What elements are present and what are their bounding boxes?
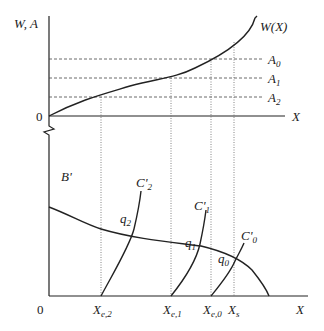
c-prime-2-label: C'2 — [136, 175, 152, 192]
c-prime-1-curve — [171, 210, 206, 296]
diagram-canvas: W, A 0 X W(X) A0 A1 A2 B' C'2 C'1 C'0 q2… — [0, 0, 324, 331]
c-prime-0-curve — [211, 243, 244, 296]
tick-xe1: Xe,1 — [162, 302, 182, 319]
tick-xe0: Xe,0 — [202, 302, 222, 319]
top-x-axis-label: X — [291, 109, 301, 124]
bottom-origin-label: 0 — [37, 302, 44, 317]
b-prime-label: B' — [61, 169, 72, 184]
tick-xs: Xs — [227, 302, 240, 319]
axis-break-icon — [44, 116, 54, 296]
tick-xe2: Xe,2 — [92, 302, 112, 319]
y-axis-label: W, A — [14, 16, 38, 31]
c-prime-2-curve — [101, 191, 141, 296]
b-prime-curve — [49, 207, 269, 296]
c-prime-0-label: C'0 — [241, 228, 257, 245]
w-curve — [49, 16, 257, 116]
q2-label: q2 — [120, 211, 132, 228]
w-curve-label: W(X) — [260, 19, 287, 34]
level-lines — [49, 59, 263, 97]
level-label-a0: A0 — [267, 52, 281, 69]
c-prime-1-label: C'1 — [194, 198, 210, 215]
level-label-a2: A2 — [267, 90, 281, 107]
q1-label: q1 — [185, 235, 196, 252]
level-label-a1: A1 — [267, 71, 280, 88]
bottom-x-axis-label: X — [295, 302, 305, 317]
q0-label: q0 — [218, 251, 230, 268]
top-origin-label: 0 — [36, 109, 43, 124]
